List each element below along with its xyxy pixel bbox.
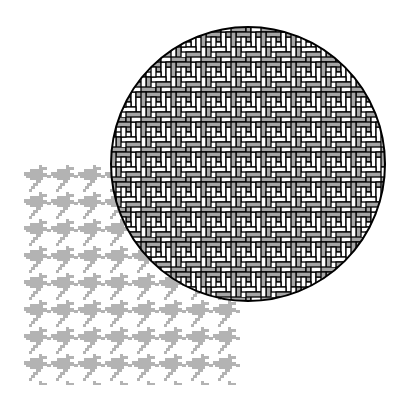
pattern-illustration — [0, 0, 402, 398]
